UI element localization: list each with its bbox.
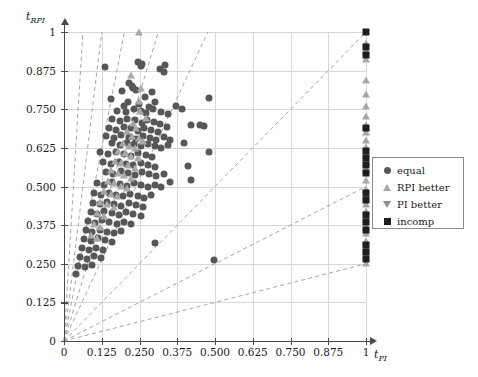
data-point-equal [91,190,98,197]
data-point-equal [96,148,103,155]
data-point-equal [179,105,186,112]
data-point-incomp [363,169,370,176]
y-tick-mark [61,109,68,110]
data-point-incomp [363,219,370,226]
data-point-rpi-better [362,177,370,184]
data-point-equal [99,159,106,166]
legend-label: incomp [397,216,434,227]
data-point-equal [109,239,116,246]
legend-item-rpi-better[interactable]: RPI better [373,179,463,196]
y-tick-mark [61,32,68,33]
y-tick-mark [61,302,68,303]
data-point-equal [93,179,100,186]
data-point-equal [138,169,145,176]
data-point-incomp [363,43,370,50]
y-tick-label: 0.375 [6,219,56,231]
data-point-incomp [363,125,370,132]
data-point-equal [205,95,212,102]
data-point-rpi-better [142,114,150,121]
data-point-rpi-better [362,103,370,110]
y-tick-label: 0.750 [6,103,56,115]
data-point-rpi-better [362,136,370,143]
data-point-equal [140,203,147,210]
y-tick-mark [61,225,68,226]
data-point-equal [137,213,144,220]
data-point-equal [147,192,154,199]
data-point-incomp [363,147,370,154]
data-point-equal [73,270,80,277]
data-point-equal [106,219,113,226]
legend-label: RPI better [397,182,449,193]
data-point-equal [108,210,115,217]
x-tick-mark [177,338,178,345]
data-point-equal [146,171,153,178]
data-point-rpi-better [127,71,135,78]
data-point-equal [82,264,89,271]
data-point-equal [165,110,172,117]
square-icon [380,218,394,225]
data-point-rpi-better [135,29,143,36]
y-axis-arrow-icon [61,18,69,25]
gridline-horizontal [64,264,366,265]
data-point-equal [100,246,107,253]
gridline-horizontal [64,71,366,72]
data-point-rpi-better [100,212,108,219]
data-point-equal [130,211,137,218]
legend-item-pi-better[interactable]: PI better [373,196,463,213]
y-tick-label: 0.625 [6,142,56,154]
data-point-incomp [363,162,370,169]
data-point-incomp [363,197,370,204]
x-axis-title-sub: PI [378,354,387,363]
x-axis-line [64,341,372,342]
data-point-equal [187,121,194,128]
gridline-horizontal [64,302,366,303]
data-point-equal [158,144,165,151]
data-point-equal [151,239,158,246]
legend-label: PI better [397,199,442,210]
y-tick-label: 0.875 [6,65,56,77]
data-point-equal [89,199,96,206]
data-point-incomp [363,211,370,218]
data-point-equal [103,228,110,235]
data-point-incomp [363,241,370,248]
data-point-equal [74,262,81,269]
y-tick-mark [61,187,68,188]
data-point-equal [160,69,167,76]
y-axis-title: tRPI [26,10,45,25]
data-point-equal [151,163,158,170]
x-tick-label: 0.625 [238,346,268,358]
data-point-equal [132,202,139,209]
legend-item-equal[interactable]: equal [373,162,463,179]
data-point-equal [165,142,172,149]
data-point-equal [153,172,160,179]
legend-item-incomp[interactable]: incomp [373,213,463,230]
data-point-equal [102,237,109,244]
data-point-equal [149,153,156,160]
data-point-rpi-better [123,185,131,192]
data-point-equal [123,209,130,216]
data-point-equal [111,230,118,237]
scatter-plot-figure: 00.1250.2500.3750.5000.6250.7500.8751 00… [0,0,478,377]
data-point-equal [105,124,112,131]
data-point-rpi-better [132,124,140,131]
data-point-equal [118,88,125,95]
data-point-equal [76,253,83,260]
data-point-equal [205,148,212,155]
data-point-rpi-better [93,234,101,241]
x-tick-label: 0.875 [313,346,343,358]
triangle-down-icon [380,201,394,208]
data-point-incomp [363,249,370,256]
data-point-rpi-better [96,223,104,230]
gridline-horizontal [64,109,366,110]
x-tick-label: 0.125 [87,346,117,358]
legend-box[interactable]: equalRPI betterPI betterincomp [372,157,464,229]
data-point-rpi-better [113,193,121,200]
data-point-incomp [363,189,370,196]
data-point-rpi-better [131,164,139,171]
data-point-equal [102,64,109,71]
y-tick-label: 1 [6,26,56,38]
data-point-rpi-better [127,174,135,181]
y-axis-title-sub: RPI [30,16,45,25]
data-point-incomp [363,226,370,233]
data-point-equal [138,60,145,67]
